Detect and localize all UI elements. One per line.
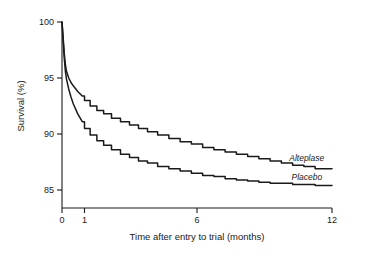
chart-plot-area: 859095100 01612 AlteplasePlacebo Time af… xyxy=(0,0,368,258)
survival-chart-figure: 859095100 01612 AlteplasePlacebo Time af… xyxy=(0,0,368,258)
y-tick-label: 85 xyxy=(44,185,54,195)
series-inline-labels: AlteplasePlacebo xyxy=(288,153,324,182)
y-tick-label: 90 xyxy=(44,129,54,139)
y-axis-group: 859095100 xyxy=(39,17,62,208)
x-axis-title: Time after entry to trial (months) xyxy=(130,231,265,242)
y-tick-label: 95 xyxy=(44,73,54,83)
x-tick-label: 6 xyxy=(194,215,199,225)
y-axis-title: Survival (%) xyxy=(15,80,26,131)
x-axis-group: 01612 xyxy=(59,208,337,225)
curve-alteplase xyxy=(62,22,332,169)
x-tick-label: 1 xyxy=(82,215,87,225)
x-tick-label: 12 xyxy=(327,215,337,225)
y-tick-label: 100 xyxy=(39,17,54,27)
y-axis-ticks: 859095100 xyxy=(39,17,62,195)
x-tick-label: 0 xyxy=(59,215,64,225)
series-label-alteplase: Alteplase xyxy=(288,153,324,163)
x-axis-ticks: 01612 xyxy=(59,208,337,225)
series-label-placebo: Placebo xyxy=(292,172,323,182)
